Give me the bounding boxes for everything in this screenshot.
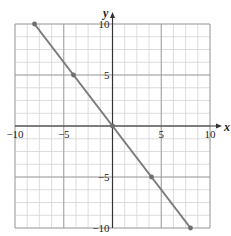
data-point-marker xyxy=(110,124,115,129)
data-point-marker xyxy=(188,226,193,231)
x-axis-arrow-icon xyxy=(216,124,222,129)
y-tick-label: 5 xyxy=(104,69,110,81)
y-axis-label: y xyxy=(101,6,109,20)
data-point-marker xyxy=(149,175,154,180)
y-tick-label: −10 xyxy=(92,222,110,234)
x-axis-label: x xyxy=(223,120,230,134)
data-point-marker xyxy=(71,73,76,78)
coordinate-plane-chart: −10−5510−10−5510 x y xyxy=(0,0,231,236)
x-tick-label: 10 xyxy=(205,128,217,140)
x-tick-label: −10 xyxy=(6,128,24,140)
y-tick-label: −5 xyxy=(98,171,110,183)
axes xyxy=(15,12,222,228)
data-point-marker xyxy=(32,22,37,27)
x-tick-label: 5 xyxy=(159,128,165,140)
x-tick-label: −5 xyxy=(58,128,70,140)
y-axis-arrow-icon xyxy=(110,12,115,18)
